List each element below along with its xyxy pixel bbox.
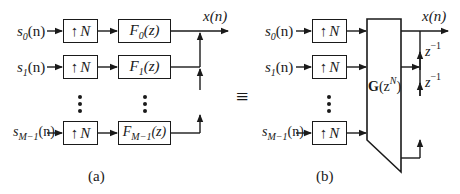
- filter-box-0: F0(z): [118, 19, 171, 43]
- input-subscript: M−1: [267, 131, 287, 142]
- input-arg: (n): [276, 59, 294, 75]
- filter-subscript: M−1: [131, 131, 151, 142]
- ellipsis-dot: [143, 95, 147, 99]
- caption-b: (b): [316, 168, 334, 185]
- ellipsis-dot: [327, 102, 331, 106]
- input-label-sM-1-b: sM−1(n): [262, 125, 304, 142]
- ellipsis-dot: [143, 102, 147, 106]
- upsampler-box-M-1: ↑N: [63, 121, 98, 145]
- matrix-arg-open: (z: [379, 79, 390, 94]
- input-subscript: M−1: [18, 131, 38, 142]
- filter-symbol: F: [130, 22, 139, 38]
- up-arrow-icon: ↑: [320, 125, 328, 142]
- polyphase-matrix-label: G(zN): [368, 76, 401, 94]
- upsampler-factor: N: [329, 23, 339, 40]
- delay-exponent: −1: [430, 40, 441, 51]
- upsampler-box-0-b: ↑N: [312, 19, 347, 43]
- matrix-symbol: G: [368, 79, 379, 94]
- upsampler-box-1-b: ↑N: [312, 55, 347, 79]
- input-label-s1-b: s1(n): [265, 60, 293, 78]
- filter-arg: (z): [144, 58, 160, 74]
- input-arg: (n): [28, 23, 46, 39]
- ellipsis-dot: [143, 109, 147, 113]
- filter-arg: (z): [144, 22, 160, 38]
- filter-label: F0(z): [130, 22, 160, 41]
- ellipsis-dot: [327, 95, 331, 99]
- up-arrow-icon: ↑: [71, 23, 79, 40]
- up-arrow-icon: ↑: [320, 23, 328, 40]
- ellipsis-dot: [78, 95, 82, 99]
- input-label-s0: s0(n): [17, 24, 45, 42]
- filter-box-1: F1(z): [118, 55, 171, 79]
- output-label-b: x(n): [422, 9, 446, 24]
- upsampler-factor: N: [329, 59, 339, 76]
- filter-arg: (z): [151, 124, 166, 139]
- input-arg: (n): [28, 59, 46, 75]
- upsampler-factor: N: [80, 59, 90, 76]
- delay-label-2: z−1: [425, 72, 441, 90]
- delay-exponent: −1: [430, 71, 441, 82]
- upsampler-box-1: ↑N: [63, 55, 98, 79]
- upsampler-factor: N: [80, 125, 90, 142]
- output-label-a: x(n): [203, 9, 227, 24]
- filter-box-M-1: FM−1(z): [118, 121, 171, 145]
- equivalence-symbol: ≡: [236, 84, 248, 110]
- input-arg: (n): [276, 23, 294, 39]
- upsampler-box-0: ↑N: [63, 19, 98, 43]
- filter-label: F1(z): [130, 58, 160, 77]
- ellipsis-dot: [78, 102, 82, 106]
- delay-label-1: z−1: [425, 41, 441, 59]
- up-arrow-icon: ↑: [71, 59, 79, 76]
- input-label-s1: s1(n): [17, 60, 45, 78]
- upsampler-factor: N: [329, 125, 339, 142]
- ellipsis-dot: [327, 109, 331, 113]
- input-label-s0-b: s0(n): [265, 24, 293, 42]
- synthesis-filter-bank-diagram: s0(n) s1(n) sM−1(n) ↑N ↑N ↑N F0(z) F1(z)…: [0, 0, 460, 194]
- filter-symbol: F: [130, 58, 139, 74]
- upsampler-box-M-1-b: ↑N: [312, 121, 347, 145]
- upsampler-factor: N: [80, 23, 90, 40]
- up-arrow-icon: ↑: [320, 59, 328, 76]
- ellipsis-dot: [78, 109, 82, 113]
- matrix-arg-close: ): [396, 79, 401, 94]
- caption-a: (a): [88, 168, 105, 185]
- input-arg: (n): [39, 124, 55, 139]
- input-arg: (n): [288, 124, 304, 139]
- filter-label: FM−1(z): [123, 124, 166, 142]
- up-arrow-icon: ↑: [71, 125, 79, 142]
- input-label-sM-1: sM−1(n): [13, 125, 55, 142]
